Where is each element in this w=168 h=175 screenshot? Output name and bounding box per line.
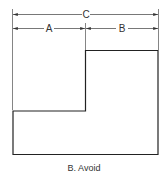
figure-caption: B. Avoid [0, 163, 168, 173]
label-b: B [119, 23, 126, 34]
stepped-shape [13, 51, 158, 155]
label-a: A [46, 23, 53, 34]
dimension-diagram: C A B [0, 0, 168, 175]
label-c: C [82, 9, 89, 20]
